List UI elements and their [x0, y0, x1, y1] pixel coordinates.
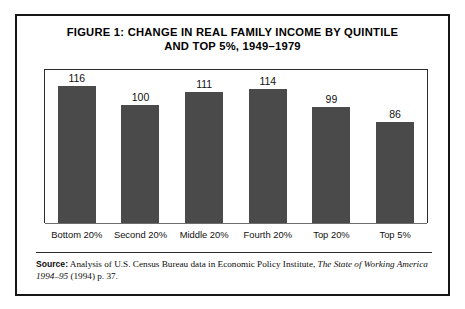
source-text-lead: Analysis of U.S. Census Bureau data in E…: [68, 259, 318, 269]
bar-series: 1161001111149986: [45, 70, 427, 223]
x-axis-category-labels: Bottom 20%Second 20%Middle 20%Fourth 20%…: [45, 229, 427, 240]
source-text-tail: (1994) p. 37.: [68, 271, 118, 281]
figure-title: FIGURE 1: CHANGE IN REAL FAMILY INCOME B…: [17, 25, 448, 53]
bar: [185, 92, 223, 223]
category-label: Top 5%: [364, 229, 427, 240]
bar-slot: 116: [45, 70, 108, 223]
category-label: Second 20%: [109, 229, 172, 240]
bar: [121, 105, 159, 223]
bar-value-label: 100: [132, 91, 150, 103]
category-label: Top 20%: [300, 229, 363, 240]
bar-value-label: 116: [68, 72, 85, 84]
bar: [312, 107, 350, 224]
bar-value-label: 111: [196, 78, 212, 90]
bar-value-label: 114: [259, 75, 276, 87]
bar-slot: 114: [236, 70, 299, 223]
category-label: Fourth 20%: [236, 229, 299, 240]
bar-value-label: 99: [326, 93, 338, 105]
bar-slot: 111: [173, 70, 236, 223]
source-note: Source: Analysis of U.S. Census Bureau d…: [36, 258, 434, 283]
x-axis-line: [45, 223, 427, 224]
bar-value-label: 86: [389, 108, 401, 120]
category-label: Bottom 20%: [45, 229, 108, 240]
source-label: Source:: [36, 259, 68, 269]
figure-title-line-2: AND TOP 5%, 1949–1979: [17, 39, 448, 53]
bar: [376, 122, 414, 223]
figure-title-line-1: FIGURE 1: CHANGE IN REAL FAMILY INCOME B…: [67, 26, 399, 38]
figure-frame: FIGURE 1: CHANGE IN REAL FAMILY INCOME B…: [15, 14, 450, 296]
bar: [249, 89, 287, 223]
bar: [58, 86, 96, 223]
source-divider: [36, 252, 432, 253]
bar-slot: 99: [300, 70, 363, 223]
bar-slot: 86: [364, 70, 427, 223]
bar-slot: 100: [109, 70, 172, 223]
category-label: Middle 20%: [173, 229, 236, 240]
